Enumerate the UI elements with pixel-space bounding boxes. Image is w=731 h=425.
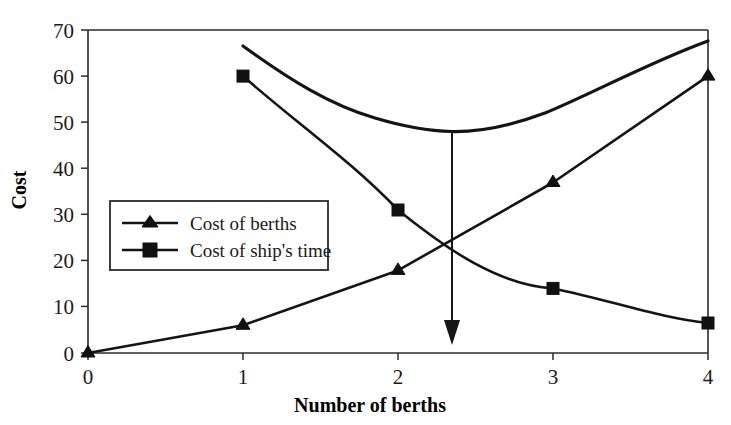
y-tick-label: 60: [53, 65, 74, 89]
y-tick-label: 30: [53, 203, 74, 227]
x-tick-marks: [88, 353, 708, 360]
legend-label: Cost of ship's time: [190, 240, 331, 261]
y-tick-label: 10: [53, 295, 74, 319]
y-tick-label: 20: [53, 249, 74, 273]
x-tick-label: 4: [703, 365, 714, 389]
chart-legend: Cost of berths Cost of ship's time: [110, 201, 331, 270]
y-tick-label: 0: [64, 342, 75, 366]
y-tick-label: 40: [53, 157, 74, 181]
square-icon: [143, 243, 157, 257]
x-tick-label: 3: [548, 365, 559, 389]
y-tick-marks: [81, 30, 88, 353]
y-tick-label: 50: [53, 111, 74, 135]
y-tick-labels: 70 60 50 40 30 20 10 0: [53, 19, 74, 366]
x-tick-label: 2: [393, 365, 404, 389]
x-axis-title: Number of berths: [294, 394, 446, 416]
x-tick-label: 1: [238, 365, 249, 389]
y-axis-title: Cost: [8, 170, 30, 209]
chart-container: 70 60 50 40 30 20 10 0 0 1 2 3 4 Number …: [0, 0, 731, 425]
legend-label: Cost of berths: [190, 213, 297, 234]
markers-cost-of-ships-time: [237, 70, 714, 329]
cost-vs-berths-chart: 70 60 50 40 30 20 10 0 0 1 2 3 4 Number …: [0, 0, 731, 425]
series-line-cost-of-ships-time: [243, 76, 708, 323]
x-tick-labels: 0 1 2 3 4: [83, 365, 714, 389]
y-tick-label: 70: [53, 19, 74, 43]
x-tick-label: 0: [83, 365, 94, 389]
series-line-total-cost: [243, 41, 708, 132]
